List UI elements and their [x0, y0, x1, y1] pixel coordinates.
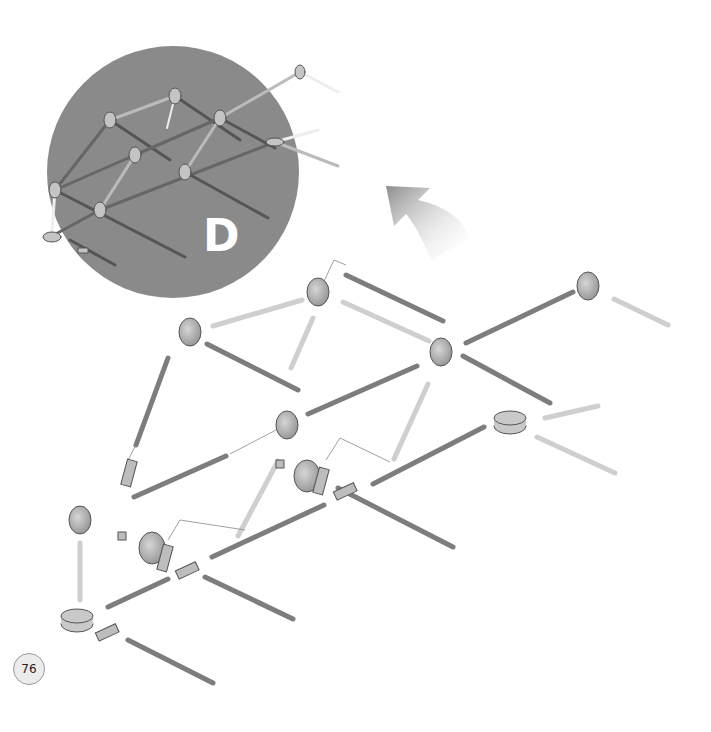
- inset-background: [47, 46, 299, 298]
- instruction-page: D 76: [0, 0, 711, 732]
- rods: [80, 275, 668, 683]
- step-label: D: [203, 214, 240, 258]
- page-number-badge: 76: [13, 653, 45, 685]
- exploded-assembly-diagram: [0, 0, 711, 732]
- curved-arrow-up-left-icon: [386, 186, 470, 262]
